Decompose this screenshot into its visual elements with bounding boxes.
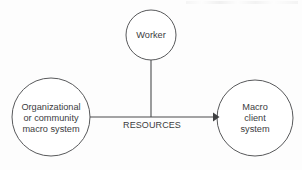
node-label-line: Organizational	[4, 102, 98, 113]
diagram-graphics	[0, 0, 302, 170]
node-macro-client-system-label: Macro client system	[221, 102, 289, 135]
edge-resources-label: RESOURCES	[104, 120, 200, 131]
node-label-line: Worker	[126, 30, 176, 41]
node-organizational-macro-system-label: Organizational or community macro system	[4, 102, 98, 135]
node-label-line: system	[221, 124, 289, 135]
node-label-line: macro system	[4, 124, 98, 135]
node-label-line: client	[221, 113, 289, 124]
node-worker-label: Worker	[126, 30, 176, 41]
diagram-canvas: Organizational or community macro system…	[0, 0, 302, 170]
node-label-line: Macro	[221, 102, 289, 113]
node-label-line: or community	[4, 113, 98, 124]
